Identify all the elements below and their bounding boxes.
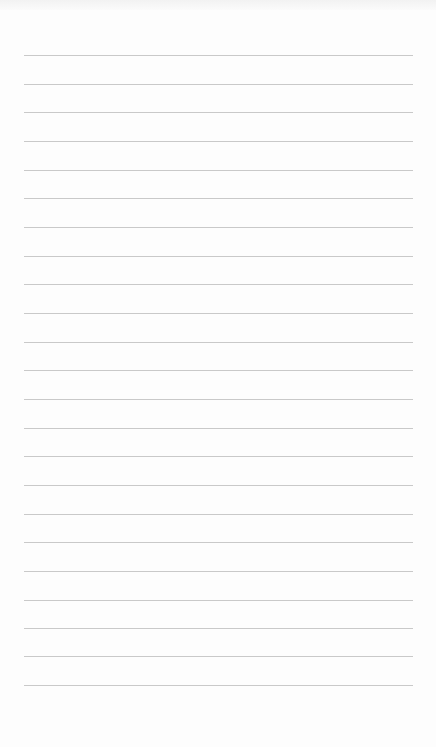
ruled-line	[24, 313, 413, 314]
ruled-line	[24, 55, 413, 56]
ruled-line	[24, 600, 413, 601]
ruled-line	[24, 542, 413, 543]
ruled-line	[24, 514, 413, 515]
ruled-line	[24, 399, 413, 400]
ruled-line	[24, 256, 413, 257]
ruled-line	[24, 628, 413, 629]
ruled-line	[24, 370, 413, 371]
ruled-line	[24, 485, 413, 486]
ruled-line	[24, 284, 413, 285]
ruled-line	[24, 571, 413, 572]
ruled-line	[24, 456, 413, 457]
lined-paper	[0, 0, 436, 747]
ruled-line	[24, 656, 413, 657]
ruled-line	[24, 342, 413, 343]
ruled-line	[24, 428, 413, 429]
ruled-line	[24, 227, 413, 228]
ruled-line	[24, 141, 413, 142]
ruled-line	[24, 84, 413, 85]
ruled-line	[24, 112, 413, 113]
ruled-line	[24, 170, 413, 171]
ruled-line	[24, 198, 413, 199]
ruled-line	[24, 685, 413, 686]
